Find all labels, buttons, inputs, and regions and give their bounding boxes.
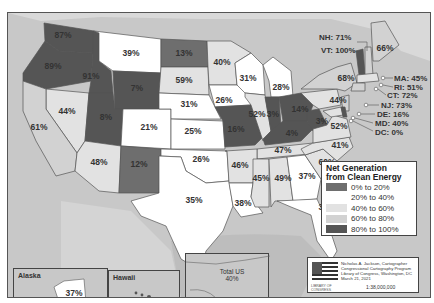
legend-label: 60% to 80% [351,214,394,223]
label-va: 52% [330,121,347,131]
legend-swatch [326,225,347,233]
credit-box: LIBRARY OF CONGRESS Nicholas A. Jackson,… [307,257,419,293]
state-nm [119,146,161,193]
callout-ma: MA: 45% [394,74,427,83]
label-wv: 3% [316,116,329,126]
inset-hawaii: Hawaii 78% [108,270,180,298]
callout-ct: CT: 72% [387,91,418,100]
legend-swatch [326,194,347,202]
legend-row: 40% to 60% [326,203,412,214]
callout-dc: DC: 0% [375,128,403,137]
callout-md: MD: 40% [375,119,408,128]
label-wa: 87% [54,30,71,40]
label-il: 52% [248,109,265,119]
label-ky: 4% [286,128,299,138]
label-nd: 13% [175,48,192,58]
state-ma [357,73,379,83]
label-al: 49% [274,173,291,183]
label-nv: 44% [58,106,75,116]
legend-row: 20% to 40% [326,193,412,204]
inset-total-value: 40% [225,275,238,282]
label-tn: 47% [274,145,291,155]
label-ks: 25% [184,126,201,136]
label-ms: 45% [252,173,269,183]
state-ct [351,83,365,91]
label-mo: 16% [227,124,244,134]
legend-label: 0% to 20% [351,183,390,192]
label-me: 66% [376,43,393,53]
label-ga: 37% [298,171,315,181]
label-ok: 26% [192,154,209,164]
label-tx: 35% [185,195,202,205]
legend-label: 80% to 100% [351,225,399,234]
legend: Net Generation from Clean Energy 0% to 2… [321,161,417,236]
callout-nh: NH: 71% [319,33,351,42]
label-ut: 8% [100,112,113,122]
label-nm: 12% [130,159,147,169]
credit-line4: March 21, 2021 [341,276,412,281]
legend-row: 0% to 20% [326,182,412,193]
legend-swatch [326,204,347,212]
label-wi: 31% [239,73,256,83]
logo-text: LIBRARY OF CONGRESS [311,284,339,292]
label-pa: 44% [329,95,346,105]
label-mi: 28% [272,82,289,92]
callout-de: DE: 16% [377,110,409,119]
library-of-congress-logo-icon [312,262,338,282]
label-ia: 26% [215,95,232,105]
legend-label: 20% to 40% [351,193,394,202]
inset-alaska-value: 37% [65,288,82,298]
label-az: 48% [90,157,107,167]
label-mn: 40% [213,57,230,67]
label-wy: 7% [131,83,144,93]
legend-swatch [326,183,347,191]
inset-total-title: Total US [220,268,245,275]
legend-swatch [326,215,347,223]
callout-vt: VT: 100% [321,46,356,55]
inset-alaska: Alaska 37% [13,268,108,298]
label-ar: 46% [231,160,248,170]
label-or: 89% [44,61,61,71]
legend-label: 40% to 60% [351,204,394,213]
label-ca: 61% [30,122,47,132]
legend-row: 60% to 80% [326,214,412,225]
label-la: 38% [234,198,251,208]
inset-total-us: Total US 40% [185,253,269,298]
label-ne: 31% [180,99,197,109]
label-nc: 41% [331,140,348,150]
label-in: 3% [267,109,280,119]
map-frame: 87% 89% 91% 39% 13% 59% 7% 44% 61% 8% 21… [7,12,431,298]
label-id: 91% [82,71,99,81]
label-oh: 14% [291,104,308,114]
label-sd: 59% [175,75,192,85]
map-scale: 1:38,000,000 [366,284,395,290]
label-ny: 68% [337,73,354,83]
label-co: 21% [140,122,157,132]
credit-text: Nicholas A. Jackson, Cartographer Congre… [341,261,412,281]
legend-title-line2: from Clean Energy [326,173,412,182]
label-mt: 39% [122,48,139,58]
callout-nj: NJ: 73% [381,101,412,110]
legend-row: 80% to 100% [326,224,412,235]
